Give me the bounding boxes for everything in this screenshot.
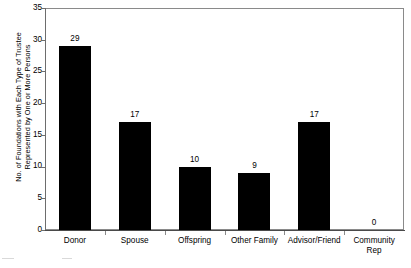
x-tick-mark-4 [284, 231, 285, 235]
y-tick-mark-20 [41, 103, 45, 104]
bar-value-label-offspring: 10 [175, 156, 215, 164]
bar-chart-figure: No. of Foundations with Each Type of Tru… [0, 0, 411, 268]
x-tick-mark-2 [165, 231, 166, 235]
scan-artifact-right [62, 258, 72, 259]
bar-offspring [179, 167, 211, 230]
y-tick-label-5: 5 [24, 194, 42, 202]
bar-value-label-spouse: 17 [115, 111, 155, 119]
bar-value-label-community-rep: 0 [354, 219, 394, 227]
bar-value-label-other-family: 9 [234, 162, 274, 170]
y-tick-label-35: 35 [24, 4, 42, 12]
y-tick-mark-25 [41, 71, 45, 72]
y-tick-mark-35 [41, 8, 45, 9]
x-category-label-community-rep: CommunityRep [334, 236, 411, 256]
scan-artifact-left [2, 258, 14, 259]
bar-value-label-donor: 29 [55, 35, 95, 43]
y-tick-label-25: 25 [24, 67, 42, 75]
x-tick-mark-5 [344, 231, 345, 235]
x-category-label-community-rep-line-2: Rep [334, 246, 411, 256]
y-tick-label-15: 15 [24, 131, 42, 139]
bar-advisor-friend [298, 122, 330, 230]
bar-value-label-advisor-friend: 17 [294, 111, 334, 119]
y-tick-mark-15 [41, 135, 45, 136]
bar-spouse [119, 122, 151, 230]
y-tick-mark-0 [41, 230, 45, 231]
y-tick-label-10: 10 [24, 162, 42, 170]
x-category-label-community-rep-line-1: Community [334, 236, 411, 246]
y-axis-title-line-1: No. of Foundations with Each Type of Tru… [14, 2, 23, 212]
bar-donor [59, 46, 91, 230]
y-tick-mark-30 [41, 40, 45, 41]
y-tick-label-20: 20 [24, 99, 42, 107]
y-tick-mark-10 [41, 167, 45, 168]
y-tick-label-30: 30 [24, 36, 42, 44]
bar-other-family [238, 173, 270, 230]
x-tick-mark-1 [105, 231, 106, 235]
y-tick-mark-5 [41, 198, 45, 199]
plot-area [45, 8, 404, 230]
y-axis-tick-labels: 05101520253035 [24, 0, 42, 268]
y-tick-label-0: 0 [24, 226, 42, 234]
y-axis-line [45, 8, 46, 231]
x-tick-mark-3 [225, 231, 226, 235]
